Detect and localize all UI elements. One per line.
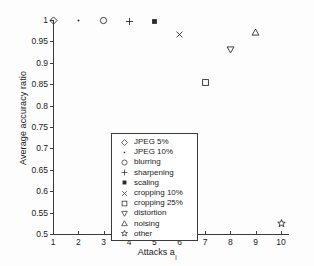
x-axis-tick-label: 10 — [276, 238, 285, 247]
legend-item-blurring: blurring — [112, 157, 197, 167]
legend-item-jpeg-10: JPEG 10% — [112, 147, 197, 157]
data-point-scaling — [148, 16, 160, 28]
scatter-chart-figure: Average accuracy ratio Attacks ai 0.50.5… — [0, 0, 314, 266]
x-axis-tick-label: 1 — [51, 238, 56, 247]
x-axis-label: Attacks ai — [0, 247, 314, 259]
x-axis-tick-label: 7 — [203, 238, 208, 247]
legend-item-label: noising — [132, 220, 159, 228]
cross-marker-icon — [117, 188, 132, 198]
y-axis-tick — [50, 127, 54, 128]
legend-item-label: cropping 25% — [132, 199, 183, 207]
y-axis-tick-label: 0.65 — [31, 166, 48, 175]
data-point-sharpening — [123, 16, 135, 28]
y-axis-tick-label: 0.55 — [31, 208, 48, 217]
legend-item-sharpening: sharpening — [112, 168, 197, 178]
x-axis-tick — [53, 231, 54, 235]
legend-item-label: JPEG 10% — [132, 148, 173, 156]
legend-item-scaling: scaling — [112, 178, 197, 188]
dot-marker-icon — [117, 147, 132, 157]
x-axis-tick — [205, 231, 206, 235]
legend-item-label: cropping 10% — [132, 189, 183, 197]
y-axis-tick-label: 0.7 — [36, 144, 48, 153]
x-axis-tick-label: 8 — [228, 238, 233, 247]
y-axis-tick — [50, 63, 54, 64]
legend-item-label: blurring — [132, 158, 161, 166]
y-axis-tick-label: 0.85 — [31, 80, 48, 89]
x-axis-label-subscript: i — [175, 254, 176, 261]
data-point-jpeg-10 — [72, 14, 84, 26]
diamond-marker-icon — [117, 137, 132, 147]
legend-item-distortion: distortion — [112, 208, 197, 218]
y-axis-tick — [50, 191, 54, 192]
legend-item-cropping-10: cropping 10% — [112, 188, 197, 198]
x-axis-tick-label: 3 — [101, 238, 106, 247]
data-point-cropping-10 — [174, 29, 186, 41]
legend-item-other: other — [112, 229, 197, 239]
y-axis-tick — [50, 41, 54, 42]
open-square-marker-icon — [117, 198, 132, 208]
y-axis-tick — [50, 170, 54, 171]
plot-area: 0.50.550.60.650.70.750.80.850.90.951 123… — [53, 20, 289, 235]
legend-item-label: other — [132, 230, 152, 238]
data-point-other — [275, 217, 287, 229]
chart-legend: JPEG 5%JPEG 10%blurringsharpeningscaling… — [111, 133, 198, 241]
legend-item-cropping-25: cropping 25% — [112, 198, 197, 208]
y-axis-label: Average accuracy ratio — [18, 43, 28, 193]
x-axis-tick-label: 2 — [76, 238, 81, 247]
y-axis-tick-label: 0.95 — [31, 37, 48, 46]
y-axis-tick-label: 0.9 — [36, 59, 48, 68]
y-axis-tick-label: 0.6 — [36, 187, 48, 196]
data-point-jpeg-5 — [47, 14, 59, 26]
data-point-distortion — [224, 43, 236, 55]
x-axis-tick — [230, 231, 231, 235]
legend-item-noising: noising — [112, 219, 197, 229]
plus-marker-icon — [117, 168, 132, 178]
y-axis-tick — [50, 213, 54, 214]
triangle-down-marker-icon — [117, 208, 132, 218]
y-axis-tick-label: 0.8 — [36, 101, 48, 110]
circle-marker-icon — [117, 157, 132, 167]
data-point-noising — [250, 27, 262, 39]
legend-item-jpeg-5: JPEG 5% — [112, 137, 197, 147]
x-axis-tick — [104, 231, 105, 235]
legend-item-label: scaling — [132, 179, 159, 187]
filled-square-marker-icon — [117, 178, 132, 188]
data-point-blurring — [98, 15, 110, 27]
legend-item-label: distortion — [132, 209, 166, 217]
y-axis-tick — [50, 148, 54, 149]
y-axis-tick — [50, 84, 54, 85]
triangle-up-marker-icon — [117, 219, 132, 229]
y-axis-tick-label: 0.5 — [36, 230, 48, 239]
x-axis-tick — [78, 231, 79, 235]
data-point-cropping-25 — [199, 76, 211, 88]
x-axis-tick — [281, 231, 282, 235]
star-marker-icon — [117, 229, 132, 239]
y-axis-tick-label: 0.75 — [31, 123, 48, 132]
x-axis-label-text: Attacks a — [138, 247, 175, 257]
x-axis-tick — [256, 231, 257, 235]
x-axis-tick-label: 9 — [253, 238, 258, 247]
legend-item-label: sharpening — [132, 169, 174, 177]
y-axis-tick — [50, 106, 54, 107]
legend-item-label: JPEG 5% — [132, 138, 169, 146]
